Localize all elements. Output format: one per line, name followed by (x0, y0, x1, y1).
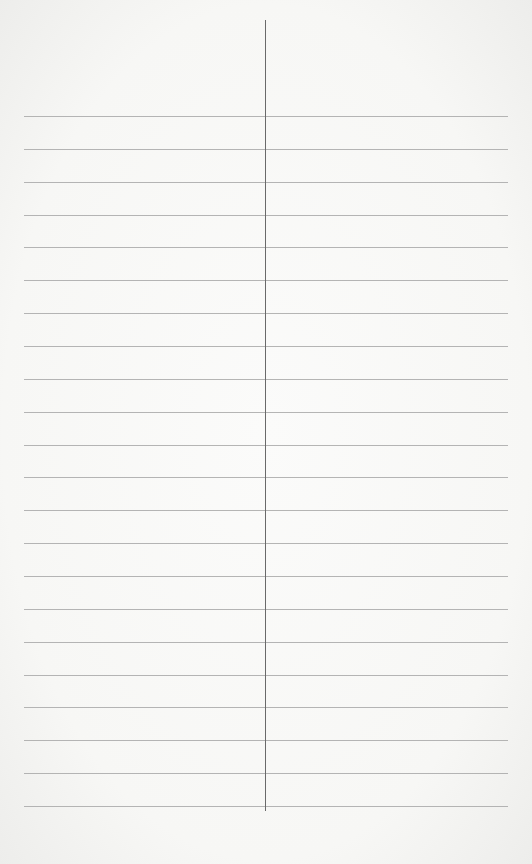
ruled-line (24, 412, 508, 413)
ruled-line (24, 642, 508, 643)
ruled-line (24, 280, 508, 281)
ruled-line (24, 675, 508, 676)
ruled-line (24, 609, 508, 610)
ruled-line (24, 379, 508, 380)
ruled-line (24, 445, 508, 446)
ruled-line (24, 313, 508, 314)
ruled-line (24, 576, 508, 577)
ruled-line (24, 215, 508, 216)
ruled-line (24, 149, 508, 150)
ruled-line (24, 247, 508, 248)
ruled-line (24, 543, 508, 544)
ruled-line (24, 806, 508, 807)
column-divider (265, 20, 266, 811)
ruled-line (24, 773, 508, 774)
ruled-line (24, 707, 508, 708)
ruled-line (24, 740, 508, 741)
ruled-line (24, 477, 508, 478)
ruled-line (24, 510, 508, 511)
ruled-line (24, 182, 508, 183)
ruled-paper (0, 0, 532, 864)
ruled-line (24, 346, 508, 347)
ruled-line (24, 116, 508, 117)
